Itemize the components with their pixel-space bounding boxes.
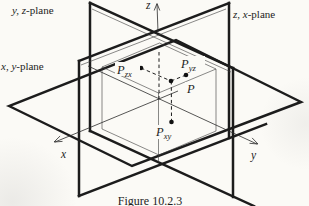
plane-inner-edges (81, 9, 231, 72)
z-axis-label: z (145, 0, 151, 11)
xy-plane-label: x, y-plane (0, 60, 44, 72)
projection-lines (141, 68, 186, 122)
zx-plane-top-edge (79, 3, 229, 61)
point-Pyz-dot (184, 73, 189, 78)
xy-plane-outline (9, 40, 301, 166)
zx-plane-outline (79, 3, 266, 196)
coordinate-planes-diagram: y, z-plane z, x-plane x, y-plane z x y P… (0, 0, 309, 206)
figure-canvas: y, z-plane z, x-plane x, y-plane z x y P… (0, 0, 309, 206)
zx-plane-label: z, x-plane (232, 8, 275, 20)
y-axis-label: y (250, 149, 257, 162)
z-axis (157, 4, 158, 32)
point-P-label: P (186, 82, 195, 96)
x-axis-label: x (60, 148, 67, 160)
point-Pxy-dot (169, 120, 174, 125)
projection-line-Pzx-P (141, 68, 171, 81)
yz-plane-label: y, z-plane (11, 4, 54, 16)
projection-line-Pyz-P (171, 75, 186, 81)
axes (54, 4, 258, 145)
point-P-dot (169, 79, 174, 84)
figure-caption: Figure 10.2.3 (118, 194, 182, 206)
